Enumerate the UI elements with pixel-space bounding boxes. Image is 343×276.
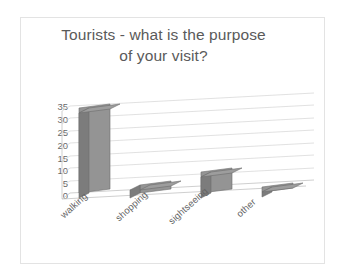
x-label-sightseeing: sightseeing [166,185,210,226]
x-label-shopping: shopping [113,189,150,224]
x-label-other: other [234,196,258,219]
x-axis-category-labels: walking shopping sightseeing other [0,0,343,276]
x-label-walking: walking [58,190,89,220]
